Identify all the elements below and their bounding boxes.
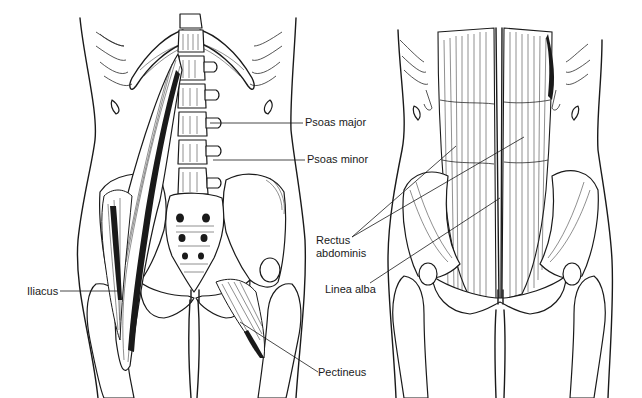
left-ribs-left (96, 32, 132, 114)
right-fig-right-ilium (540, 171, 598, 279)
right-fig-left-femur (393, 276, 428, 398)
linea-alba (496, 28, 502, 300)
left-pubic-ramus (140, 282, 194, 318)
sacrum (166, 193, 224, 292)
right-femoral-head (260, 258, 280, 282)
lumbar-spine (178, 14, 221, 194)
anatomy-illustration (0, 0, 642, 398)
label-psoas-major: Psoas major (305, 116, 366, 129)
pectineus-muscle (216, 279, 265, 358)
left-ribs-right (250, 32, 282, 114)
label-rectus-abdominis: Rectus abdominis (316, 234, 366, 260)
label-linea-alba: Linea alba (325, 283, 376, 296)
diaphragm-right (200, 30, 254, 89)
left-figure (77, 14, 305, 398)
right-fig-right-femur (570, 276, 605, 398)
label-psoas-minor: Psoas minor (307, 153, 368, 166)
anatomy-figure: Psoas major Psoas minor Iliacus Pectineu… (0, 0, 642, 398)
label-iliacus: Iliacus (27, 285, 58, 298)
right-figure (388, 28, 613, 398)
label-pectineus: Pectineus (318, 366, 366, 379)
